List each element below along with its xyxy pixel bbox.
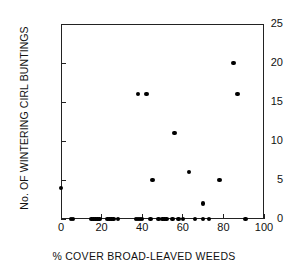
data-point — [148, 217, 153, 222]
y-tick-5 — [61, 180, 66, 181]
y-tick-label-5: 5 — [234, 173, 288, 185]
x-tick-100 — [264, 214, 265, 219]
data-point — [201, 201, 206, 206]
x-tick-label-80: 80 — [203, 221, 243, 233]
data-point — [231, 61, 236, 66]
y-tick-label-20: 20 — [234, 56, 288, 68]
x-axis-title: % COVER BROAD-LEAVED WEEDS — [0, 250, 288, 262]
scatter-plot-figure: No. OF WINTERING CIRL BUNTINGS 051015202… — [0, 0, 288, 276]
y-tick-20 — [61, 63, 66, 64]
y-tick-label-10: 10 — [234, 134, 288, 146]
y-axis-title: No. OF WINTERING CIRL BUNTINGS — [18, 18, 34, 218]
x-tick-label-60: 60 — [163, 221, 203, 233]
y-tick-10 — [61, 141, 66, 142]
data-point — [164, 217, 169, 222]
y-tick-15 — [61, 102, 66, 103]
data-point — [217, 178, 222, 183]
x-tick-label-100: 100 — [244, 221, 284, 233]
y-tick-label-25: 25 — [234, 17, 288, 29]
x-tick-label-20: 20 — [82, 221, 122, 233]
data-point — [144, 92, 149, 97]
x-tick-0 — [61, 214, 62, 219]
data-point — [150, 178, 155, 183]
x-tick-80 — [223, 214, 224, 219]
x-tick-label-0: 0 — [41, 221, 81, 233]
plot-area — [61, 24, 264, 219]
y-tick-0 — [61, 219, 66, 220]
y-tick-25 — [61, 24, 66, 25]
data-point — [97, 217, 102, 222]
x-tick-label-40: 40 — [122, 221, 162, 233]
y-tick-label-15: 15 — [234, 95, 288, 107]
